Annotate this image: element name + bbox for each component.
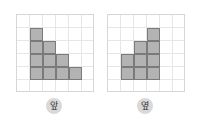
filled-square	[30, 41, 43, 54]
filled-square	[121, 54, 134, 67]
filled-square	[30, 28, 43, 41]
filled-square	[121, 67, 134, 80]
filled-square	[43, 67, 56, 80]
front-view-label: 앞	[46, 98, 62, 114]
filled-square	[147, 41, 160, 54]
side-view-label: 옆	[137, 98, 153, 114]
filled-square	[30, 54, 43, 67]
filled-square	[147, 28, 160, 41]
filled-square	[134, 67, 147, 80]
filled-square	[43, 41, 56, 54]
front-view-grid	[16, 14, 94, 92]
filled-square	[69, 67, 82, 80]
filled-square	[147, 67, 160, 80]
filled-square	[134, 41, 147, 54]
side-view-grid	[107, 14, 185, 92]
filled-square	[134, 54, 147, 67]
filled-square	[30, 67, 43, 80]
filled-square	[56, 54, 69, 67]
filled-square	[147, 54, 160, 67]
filled-square	[56, 67, 69, 80]
filled-square	[43, 54, 56, 67]
